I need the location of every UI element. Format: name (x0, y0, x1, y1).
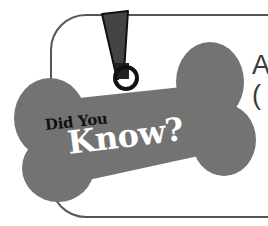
dog-bone-tag-icon (0, 0, 268, 226)
heading-fragment-line1: A (252, 52, 268, 79)
heading-fragment-line2: ( (252, 82, 261, 109)
